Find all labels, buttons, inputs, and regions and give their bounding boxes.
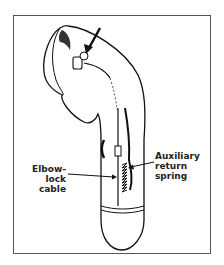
wrist-ring-1 — [101, 206, 144, 209]
cable-upper — [84, 63, 110, 78]
cable-leader-arrow — [112, 175, 117, 180]
label-elbow-lock-cable-line1: Elbow-lock — [20, 164, 66, 184]
label-auxiliary-return-spring: Auxiliary return spring — [155, 151, 221, 181]
cable-leader-line — [68, 174, 114, 177]
prosthetic-elbow-illustration — [0, 0, 224, 265]
cable-dashed — [110, 78, 117, 110]
label-aux-spring-line1: Auxiliary — [155, 151, 221, 161]
cable-fitting — [115, 146, 121, 156]
return-spring — [122, 163, 127, 192]
lock-knob — [80, 52, 88, 60]
pointer-arrow-shaft — [89, 28, 100, 48]
forearm-wall — [125, 108, 132, 190]
spring-leader-line — [131, 162, 154, 167]
wrist-ring-2 — [101, 210, 144, 213]
label-elbow-lock-cable-line2: cable — [20, 184, 66, 194]
label-aux-spring-line2: return spring — [155, 161, 221, 181]
label-elbow-lock-cable: Elbow-lock cable — [20, 164, 66, 194]
cuff-shading — [59, 30, 70, 50]
forearm-left-shade — [102, 140, 104, 158]
